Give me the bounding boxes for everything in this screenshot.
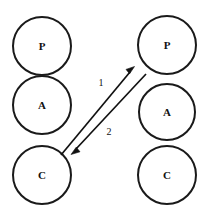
edge-2-line (76, 74, 146, 149)
edge-1-line (61, 72, 130, 155)
node-label-left-c: C (38, 169, 46, 181)
node-right-c[interactable]: C (138, 146, 196, 204)
edge-2-label: 2 (107, 126, 112, 137)
edge-1-label: 1 (99, 77, 104, 88)
node-right-p[interactable]: P (138, 16, 196, 74)
node-label-right-a: A (163, 106, 171, 118)
node-label-right-p: P (164, 39, 171, 51)
node-label-right-c: C (163, 169, 171, 181)
node-label-left-a: A (38, 99, 46, 111)
edge-2-arrow[interactable]: 2 (71, 74, 146, 155)
node-left-a[interactable]: A (13, 76, 71, 134)
edge-1-arrow[interactable]: 1 (61, 67, 135, 156)
node-left-p[interactable]: P (13, 17, 71, 75)
diagram-canvas: P A C P A C 1 (0, 0, 209, 216)
node-right-a[interactable]: A (139, 84, 195, 140)
node-label-left-p: P (39, 40, 46, 52)
edge-2-arrowhead (71, 147, 80, 154)
edge-1-arrowhead (126, 67, 135, 74)
diagram-svg: P A C P A C 1 (0, 0, 209, 216)
